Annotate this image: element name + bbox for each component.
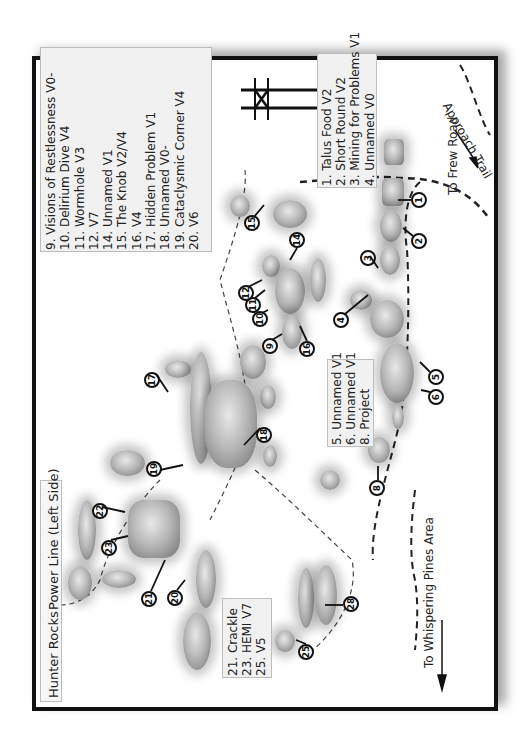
marker-leaders xyxy=(0,0,528,754)
